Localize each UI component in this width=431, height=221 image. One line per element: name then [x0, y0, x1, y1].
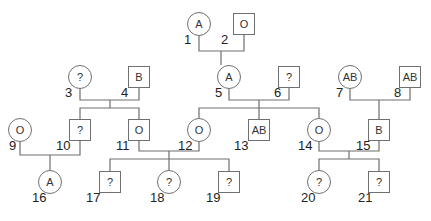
label-2: 2: [221, 33, 228, 46]
label-13: 13: [234, 139, 248, 152]
label-17: 17: [86, 191, 100, 204]
label-16: 16: [32, 191, 46, 204]
individual-2-male: O: [233, 13, 255, 35]
label-20: 20: [301, 191, 315, 204]
label-14: 14: [298, 139, 312, 152]
individual-15-male: B: [368, 119, 390, 141]
pedigree-diagram: A 1 O 2 ? 3 B 4 A 5 ? 6 AB 7 AB 8 O 9 ? …: [0, 0, 431, 221]
label-9: 9: [9, 139, 16, 152]
individual-17-male: ?: [99, 171, 121, 193]
individual-6-male: ?: [278, 66, 300, 88]
pedigree-lines: [0, 0, 431, 221]
label-5: 5: [215, 86, 222, 99]
label-8: 8: [394, 86, 401, 99]
individual-8-male: AB: [399, 66, 421, 88]
label-15: 15: [356, 139, 370, 152]
label-6: 6: [274, 86, 281, 99]
label-1: 1: [184, 33, 191, 46]
individual-11-male: O: [128, 119, 150, 141]
individual-10-male: ?: [69, 119, 91, 141]
label-7: 7: [336, 86, 343, 99]
label-10: 10: [56, 139, 70, 152]
individual-19-male: ?: [218, 171, 240, 193]
label-12: 12: [178, 139, 192, 152]
label-21: 21: [358, 191, 372, 204]
label-18: 18: [150, 191, 164, 204]
label-19: 19: [206, 191, 220, 204]
individual-13-male: AB: [248, 119, 270, 141]
individual-4-male: B: [128, 66, 150, 88]
label-11: 11: [116, 139, 130, 152]
label-4: 4: [121, 86, 128, 99]
label-3: 3: [65, 86, 72, 99]
